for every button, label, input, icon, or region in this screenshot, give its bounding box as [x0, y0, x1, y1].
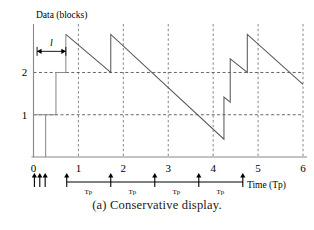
interval-labels: TpTpTpTp [84, 188, 224, 196]
arrival-markers [32, 173, 246, 187]
arrival-marker-1 [37, 173, 42, 187]
x-axis-tick-labels: 0123456 [31, 162, 307, 174]
figure-caption: (a) Conservative display. [0, 198, 314, 213]
grid-layer [34, 24, 304, 157]
y-tick-label-2: 2 [22, 66, 28, 78]
curve-startup-staircase [34, 34, 66, 157]
axes-layer [32, 24, 308, 157]
arrival-marker-2 [43, 173, 48, 187]
segment-length-arrowhead-left [37, 49, 42, 54]
interval-label-4: Tp [216, 188, 224, 196]
curve-buffer-occupancy [66, 34, 303, 139]
interval-label-2: Tp [128, 188, 136, 196]
y-axis-title: Data (blocks) [36, 10, 87, 21]
x-tick-label-6: 6 [300, 162, 306, 174]
interval-label-1: Tp [84, 188, 92, 196]
x-tick-label-1: 1 [76, 162, 82, 174]
x-tick-label-4: 4 [210, 162, 216, 174]
arrival-marker-6 [196, 173, 201, 187]
vertical-gridlines [78, 24, 303, 157]
x-tick-label-0: 0 [31, 162, 37, 174]
segment-length-annotation: l [37, 37, 66, 56]
figure-conservative-display: l 0123456 12 TpTpTpTp Data (blocks) Time… [0, 0, 314, 230]
arrival-marker-4 [108, 173, 113, 187]
x-axis-title: Time (Tp) [247, 180, 286, 191]
x-tick-label-3: 3 [166, 162, 172, 174]
y-tick-label-1: 1 [22, 109, 28, 121]
x-tick-label-2: 2 [121, 162, 127, 174]
segment-length-arrowhead-right [61, 49, 66, 54]
x-tick-label-5: 5 [255, 162, 261, 174]
y-axis-tick-labels: 12 [22, 66, 28, 120]
arrival-marker-0 [32, 173, 37, 187]
data-blocks-chart: l 0123456 12 TpTpTpTp Data (blocks) Time… [0, 0, 314, 230]
arrival-marker-7 [240, 173, 245, 187]
interval-label-3: Tp [172, 188, 180, 196]
arrival-marker-5 [152, 173, 157, 187]
segment-length-label: l [50, 37, 53, 48]
arrival-marker-3 [64, 173, 69, 187]
